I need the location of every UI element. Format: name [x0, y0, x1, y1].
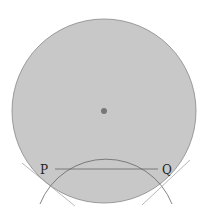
center-point — [101, 108, 107, 114]
point-label-q: Q — [162, 163, 172, 177]
geometry-diagram: P Q — [0, 0, 209, 219]
point-label-p: P — [40, 163, 48, 177]
